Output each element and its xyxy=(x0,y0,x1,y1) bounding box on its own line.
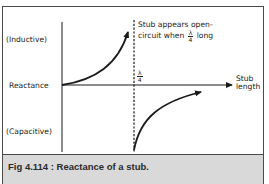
quarter-wave-marker: λ 4 xyxy=(136,70,144,82)
annotation-suffix: long xyxy=(197,31,213,40)
figure-caption: Fig 4.114 : Reactance of a stub. xyxy=(2,154,264,184)
annotation-line1: Stub appears open- xyxy=(138,20,213,29)
y-label-capacitive: (Capacitive) xyxy=(6,127,52,136)
annotation-prefix: circuit when xyxy=(138,31,184,40)
annotation-fraction-denominator: 4 xyxy=(188,37,194,43)
x-label-length: length xyxy=(236,82,260,91)
annotation-line2: circuit when λ 4 long xyxy=(138,30,213,42)
y-label-inductive: (Inductive) xyxy=(6,35,47,44)
marker-denominator: 4 xyxy=(137,77,143,83)
caption-text: Fig 4.114 : Reactance of a stub. xyxy=(8,161,149,172)
y-label-reactance: Reactance xyxy=(9,81,49,90)
capacitive-curve xyxy=(134,92,201,150)
inductive-curve xyxy=(62,32,128,85)
